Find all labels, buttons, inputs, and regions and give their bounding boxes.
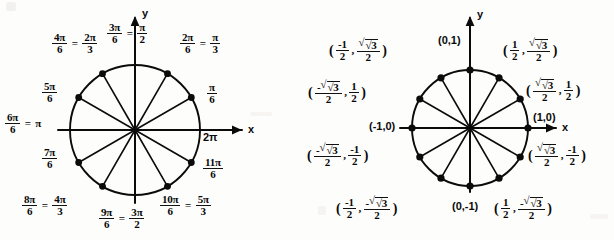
x-fraction: -√3 2 bbox=[315, 80, 342, 105]
y-fraction: √3 2 bbox=[527, 38, 550, 63]
x-axis-tick-label-2pi: 2π bbox=[203, 131, 218, 143]
radius-240 bbox=[103, 130, 136, 186]
y-fraction: √3 2 bbox=[357, 38, 380, 63]
radian-unit-circle-diagram: x y 2π π 6 2π 6 = π 3 3π 6 bbox=[0, 0, 307, 240]
fraction-5pi-over-6: 5π 6 bbox=[42, 81, 57, 104]
equals-sign: = bbox=[23, 118, 33, 129]
radius-150 bbox=[79, 98, 135, 131]
fraction-8pi-over-6: 8π 6 bbox=[22, 194, 37, 217]
value: 1 bbox=[349, 196, 354, 208]
numerator: √3 bbox=[533, 78, 556, 92]
denominator: 2 bbox=[336, 51, 349, 62]
x-fraction: 1 2 bbox=[510, 39, 519, 62]
denominator: 2 bbox=[137, 34, 147, 45]
denominator: 6 bbox=[99, 219, 114, 230]
x-axis-label: x bbox=[562, 121, 568, 133]
denominator: 2 bbox=[535, 157, 558, 168]
fraction-4pi-over-3: 4π 3 bbox=[52, 194, 67, 217]
coordinate-label-30deg: ( √3 2 , 1 2 ) bbox=[526, 78, 580, 103]
denominator: 2 bbox=[533, 92, 556, 103]
angle-label-11pi-over-6: 11π 6 bbox=[203, 157, 223, 180]
x-fraction: √3 2 bbox=[533, 78, 556, 103]
denominator: 6 bbox=[180, 44, 195, 55]
radicand: √3 bbox=[326, 144, 339, 156]
denominator: 3 bbox=[196, 206, 211, 217]
fraction-9pi-over-6: 9π 6 bbox=[99, 207, 114, 230]
denominator: 2 bbox=[364, 210, 391, 221]
radius-120 bbox=[103, 74, 136, 130]
value: 1 bbox=[354, 143, 359, 155]
fraction-4pi-over-6: 4π 6 bbox=[52, 32, 67, 55]
angle-label-5pi-over-6: 5π 6 bbox=[42, 81, 57, 104]
fraction-3pi-over-2: 3π 2 bbox=[129, 207, 144, 230]
coordinate-label-300deg: ( 1 2 , -√3 2 ) bbox=[494, 196, 552, 221]
right-paren: ) bbox=[553, 44, 557, 58]
denominator: 2 bbox=[129, 219, 144, 230]
equals-sign: = bbox=[125, 28, 135, 39]
y-fraction: 1 2 bbox=[349, 81, 358, 104]
coordinate-label-150deg: ( -√3 2 , 1 2 ) bbox=[308, 80, 366, 105]
comma: , bbox=[351, 45, 354, 56]
radicand: √3 bbox=[327, 81, 340, 93]
denominator: 6 bbox=[52, 44, 67, 55]
point-210 bbox=[416, 153, 423, 160]
denominator: 2 bbox=[566, 156, 579, 167]
left-paren: ( bbox=[307, 149, 311, 163]
left-paren: ( bbox=[494, 202, 498, 216]
value: 1 bbox=[571, 143, 576, 155]
numerator: √3 bbox=[527, 38, 550, 52]
y-axis-label: y bbox=[142, 7, 148, 19]
point-150 bbox=[75, 94, 82, 101]
radicand: √3 bbox=[535, 39, 548, 51]
value: 1 bbox=[342, 38, 347, 50]
radicand: √3 bbox=[543, 144, 556, 156]
coordinate-label-0-1: (0,1) bbox=[438, 34, 461, 46]
left-paren: ( bbox=[336, 202, 340, 216]
x-axis-arrowhead bbox=[232, 126, 242, 135]
numerator: -√3 bbox=[314, 143, 341, 157]
denominator: 6 bbox=[207, 94, 217, 105]
comma: , bbox=[522, 45, 525, 56]
right-paren: ) bbox=[382, 44, 386, 58]
point-240 bbox=[437, 175, 444, 182]
point-150 bbox=[416, 95, 423, 102]
coordinate-label-240deg: ( -1 2 , -√3 2 ) bbox=[336, 196, 397, 221]
denominator: 2 bbox=[314, 157, 341, 168]
denominator: 6 bbox=[5, 124, 20, 135]
fraction-pi-over-3: π 3 bbox=[210, 32, 220, 55]
right-paren: ) bbox=[364, 149, 368, 163]
denominator: 3 bbox=[210, 44, 220, 55]
denominator: 2 bbox=[357, 52, 380, 63]
radicand: √3 bbox=[375, 197, 388, 209]
right-paren: ) bbox=[581, 149, 585, 163]
comma: , bbox=[343, 150, 346, 161]
fraction-7pi-over-6: 7π 6 bbox=[42, 147, 57, 170]
sqrt-icon: √3 bbox=[524, 196, 543, 209]
x-fraction: 1 2 bbox=[501, 197, 510, 220]
fraction-6pi-over-6: 6π 6 bbox=[5, 112, 20, 135]
fraction-3pi-over-6: 3π 6 bbox=[107, 22, 122, 45]
sqrt-icon: √3 bbox=[369, 196, 388, 209]
angle-label-10pi-over-6: 10π 6 = 5π 3 bbox=[160, 194, 211, 217]
point-120 bbox=[437, 74, 444, 81]
equals-sign: = bbox=[198, 38, 208, 49]
point-60 bbox=[495, 74, 502, 81]
radicand: √3 bbox=[365, 39, 378, 51]
right-paren: ) bbox=[547, 202, 551, 216]
angle-label-3pi-over-6: 3π 6 = π 2 bbox=[107, 22, 147, 45]
denominator: 6 bbox=[22, 206, 37, 217]
equals-sign: = bbox=[117, 213, 127, 224]
y-axis-label: y bbox=[477, 8, 483, 20]
denominator: 2 bbox=[343, 209, 356, 220]
coordinate-label-60deg: ( 1 2 , √3 2 ) bbox=[503, 38, 557, 63]
point-30 bbox=[188, 94, 195, 101]
fraction-pi-over-6: π 6 bbox=[207, 82, 217, 105]
angle-label-pi-over-6: π 6 bbox=[207, 82, 217, 105]
point-90 bbox=[466, 66, 473, 73]
comma: , bbox=[561, 150, 564, 161]
left-paren: ( bbox=[329, 44, 333, 58]
radius-30 bbox=[135, 98, 191, 131]
x-fraction: -1 2 bbox=[336, 39, 349, 62]
right-paren: ) bbox=[361, 86, 365, 100]
numerator: -√3 bbox=[364, 196, 391, 210]
